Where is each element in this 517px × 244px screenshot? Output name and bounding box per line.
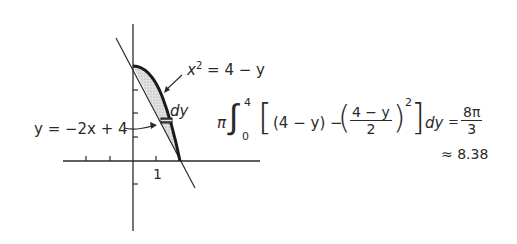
- right-bracket: ]: [411, 96, 425, 137]
- pi-coefficient: π: [217, 114, 226, 132]
- result-fraction: 8π 3: [461, 104, 482, 137]
- left-bracket: [: [258, 96, 272, 137]
- integrand-term1: (4 − y) −: [273, 114, 343, 132]
- integral-lower-limit: 0: [242, 130, 249, 143]
- right-paren: ): [393, 98, 405, 136]
- x-ticks: [86, 156, 156, 161]
- integral-sign: ∫: [229, 96, 238, 136]
- x-tick-label-1: 1: [153, 166, 162, 182]
- parabola-arrow: [166, 75, 182, 90]
- differential-dy: dy: [425, 114, 443, 132]
- parabola-equation-label: x2 = 4 − y: [187, 60, 265, 79]
- equals-sign: =: [448, 114, 459, 129]
- fraction-4-minus-y-over-2: 4 − y 2: [350, 104, 392, 137]
- integral-upper-limit: 4: [244, 96, 251, 109]
- left-paren: (: [338, 98, 350, 136]
- y-ticks: [133, 90, 138, 184]
- line-arrow: [124, 126, 152, 129]
- dy-label: dy: [170, 102, 188, 120]
- line-equation-label: y = −2x + 4: [34, 120, 128, 138]
- approx-value: ≈ 8.38: [441, 146, 488, 162]
